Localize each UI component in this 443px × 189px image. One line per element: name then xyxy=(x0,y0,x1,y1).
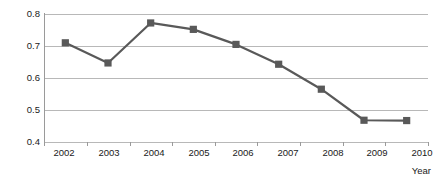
series-markers xyxy=(62,19,411,124)
data-point-2008 xyxy=(318,86,325,93)
data-point-2004 xyxy=(147,19,154,26)
data-point-2003 xyxy=(104,59,111,66)
data-point-2002 xyxy=(62,39,69,46)
data-point-2009 xyxy=(360,117,367,124)
series-layer xyxy=(0,0,443,189)
line-chart: 0.8 0.7 0.6 0.5 0.4 2002 2003 2004 2005 … xyxy=(0,0,443,189)
data-point-2007 xyxy=(275,61,282,68)
series-line xyxy=(65,23,406,121)
data-point-2010 xyxy=(403,117,410,124)
data-point-2005 xyxy=(190,26,197,33)
data-point-2006 xyxy=(232,41,239,48)
